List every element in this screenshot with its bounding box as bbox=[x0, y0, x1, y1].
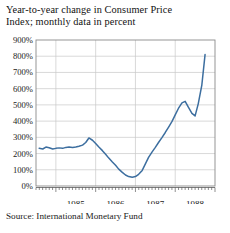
y-tick-label: 100% bbox=[13, 165, 33, 175]
line-chart-svg: 0%100%200%300%400%500%600%700%800%900% 1… bbox=[0, 34, 230, 204]
x-tick-label: 1987 bbox=[146, 199, 165, 204]
source-note: Source: International Monetary Fund bbox=[6, 211, 143, 221]
horizontal-gridlines bbox=[36, 56, 215, 170]
chart-title-line-1: Year-to-year change in Consumer Price bbox=[6, 4, 206, 16]
y-tick-label: 300% bbox=[13, 132, 33, 142]
x-tick-label: 1985 bbox=[67, 199, 86, 204]
chart-title-line-2: Index; monthly data in percent bbox=[6, 16, 206, 28]
chart-figure: Year-to-year change in Consumer Price In… bbox=[0, 0, 230, 233]
chart-plot-area: 0%100%200%300%400%500%600%700%800%900% 1… bbox=[0, 34, 230, 204]
cpi-data-line bbox=[39, 55, 205, 178]
vertical-gridlines bbox=[56, 40, 175, 186]
y-tick-label: 600% bbox=[13, 84, 33, 94]
x-axis-tick-labels: 1985198619871988 bbox=[67, 199, 205, 204]
chart-title: Year-to-year change in Consumer Price In… bbox=[6, 4, 206, 29]
x-tick-label: 1988 bbox=[186, 199, 205, 204]
y-tick-label: 200% bbox=[13, 149, 33, 159]
y-tick-label: 0% bbox=[22, 181, 33, 191]
x-tick-label: 1986 bbox=[107, 199, 126, 204]
y-tick-label: 700% bbox=[13, 67, 33, 77]
y-axis-tick-labels: 0%100%200%300%400%500%600%700%800%900% bbox=[13, 35, 33, 191]
y-tick-label: 400% bbox=[13, 116, 33, 126]
plot-frame bbox=[36, 40, 215, 186]
x-axis-minor-ticks bbox=[36, 188, 215, 193]
y-tick-label: 900% bbox=[13, 35, 33, 45]
y-tick-label: 800% bbox=[13, 51, 33, 61]
y-tick-label: 500% bbox=[13, 100, 33, 110]
